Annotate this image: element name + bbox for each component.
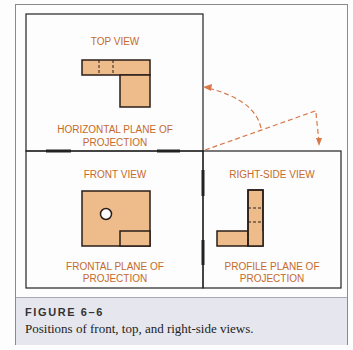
arrow-head-left-icon [203, 84, 212, 91]
top-view-title: TOP VIEW [91, 36, 140, 47]
profile-plane-label-1: PROFILE PLANE OF [224, 261, 319, 272]
front-view-shape [82, 191, 150, 246]
horizontal-plane-label-2: PROJECTION [83, 137, 147, 148]
frontal-plane-label-1: FRONTAL PLANE OF [66, 261, 164, 272]
top-view-shape [82, 60, 150, 107]
caption-text: Positions of front, top, and right-side … [25, 321, 254, 337]
right-side-view-shape [217, 190, 263, 246]
figure-page: TOP VIEW HORIZONTAL PLANE OF PROJECTION … [0, 0, 353, 350]
hole-icon [101, 209, 112, 220]
plane-boxes [26, 14, 341, 288]
profile-plane-label-2: PROJECTION [240, 273, 304, 284]
right-side-view-title: RIGHT-SIDE VIEW [229, 169, 315, 180]
frontal-plane-label-2: PROJECTION [83, 273, 147, 284]
rotation-arrows [205, 88, 319, 150]
horizontal-plane-label-1: HORIZONTAL PLANE OF [57, 124, 173, 135]
figure-caption: FIGURE 6–6 Positions of front, top, and … [16, 297, 347, 345]
front-view-title: FRONT VIEW [84, 169, 147, 180]
arrow-head-down-icon [316, 138, 322, 146]
figure-number: FIGURE 6–6 [25, 306, 104, 318]
